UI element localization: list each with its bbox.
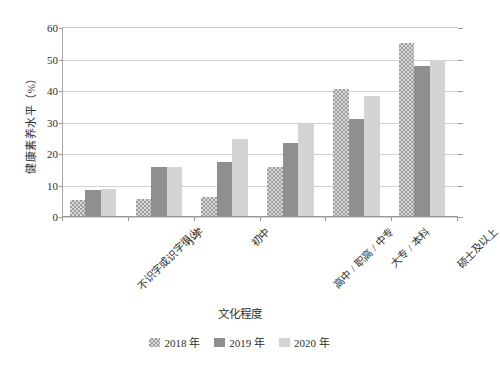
x-category-label: 硕士及以上: [453, 224, 500, 271]
plot-area: 0102030405060: [62, 27, 457, 216]
bar: [298, 124, 314, 217]
y-tick-mark-right: [458, 123, 463, 124]
x-axis-title: 文化程度: [0, 305, 479, 321]
y-tick-label: 20: [47, 148, 58, 160]
y-axis-title: 健康素养水平（%）: [22, 43, 38, 203]
y-tick-label: 50: [47, 54, 58, 66]
x-category-label: 初中: [247, 224, 272, 249]
legend-item[interactable]: 2018 年: [149, 334, 200, 350]
y-tick-label: 60: [47, 22, 58, 34]
bar: [101, 189, 117, 217]
y-tick-label: 0: [53, 211, 59, 223]
bar: [414, 66, 430, 217]
x-tick-mark: [391, 216, 392, 221]
bar: [399, 43, 415, 218]
y-tick-mark-right: [458, 60, 463, 61]
legend-label: 2020 年: [294, 334, 330, 350]
legend-swatch-icon: [149, 338, 160, 347]
x-tick-mark: [260, 216, 261, 221]
gridline: [63, 217, 458, 218]
y-tick-mark-right: [458, 217, 463, 218]
legend-label: 2018 年: [164, 334, 200, 350]
bar: [167, 167, 183, 217]
bar: [201, 197, 217, 217]
legend-item[interactable]: 2019 年: [214, 334, 265, 350]
x-tick-mark: [325, 216, 326, 221]
bars-layer: [63, 28, 458, 217]
bar: [364, 96, 380, 217]
bar: [267, 167, 283, 217]
bar: [217, 162, 233, 217]
bar: [283, 143, 299, 217]
y-tick-mark-right: [458, 154, 463, 155]
x-tick-mark: [194, 216, 195, 221]
x-axis-baseline: [63, 216, 458, 217]
y-tick-label: 30: [47, 117, 58, 129]
y-tick-mark-right: [458, 91, 463, 92]
y-tick-mark-right: [458, 28, 463, 29]
bar: [136, 199, 152, 217]
legend-swatch-icon: [279, 338, 290, 347]
bar: [430, 60, 446, 218]
bar: [349, 119, 365, 217]
legend-swatch-icon: [214, 338, 225, 347]
bar: [70, 200, 86, 217]
bar: [232, 139, 248, 217]
bar: [333, 89, 349, 217]
bar: [151, 167, 167, 217]
x-tick-mark: [62, 216, 63, 221]
x-tick-mark: [457, 216, 458, 221]
x-tick-mark: [128, 216, 129, 221]
legend-label: 2019 年: [229, 334, 265, 350]
legend-item[interactable]: 2020 年: [279, 334, 330, 350]
y-tick-mark-right: [458, 186, 463, 187]
y-tick-label: 10: [47, 180, 58, 192]
y-tick-label: 40: [47, 85, 58, 97]
chart-legend: 2018 年2019 年2020 年: [0, 334, 479, 350]
bar: [85, 190, 101, 217]
